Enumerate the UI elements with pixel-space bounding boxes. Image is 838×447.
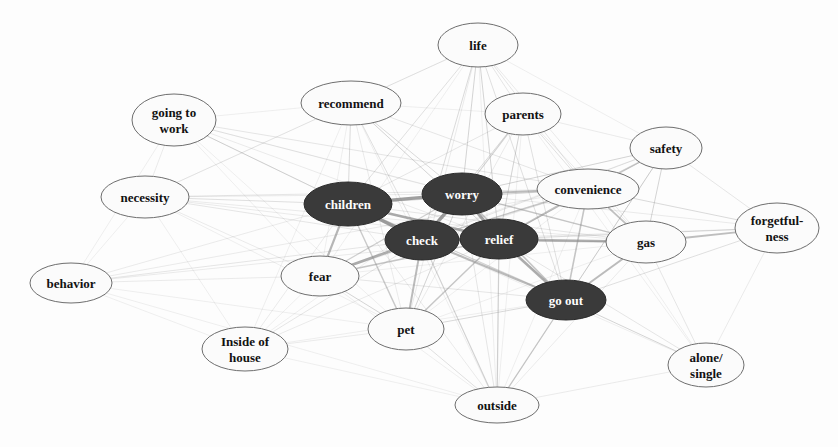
graph-edge — [345, 291, 381, 313]
node-ellipse[interactable] — [132, 94, 216, 146]
graph-node-relief[interactable]: relief — [460, 219, 538, 259]
graph-edge — [538, 240, 606, 241]
node-ellipse[interactable] — [368, 308, 444, 350]
graph-edge — [349, 125, 351, 182]
node-layer: liferecommendparentsgoing toworksafetyco… — [30, 23, 819, 423]
graph-node-gas[interactable]: gas — [606, 221, 686, 263]
graph-edge — [499, 135, 522, 387]
graph-edge — [153, 145, 165, 176]
graph-edge — [650, 169, 661, 221]
graph-edge — [656, 262, 696, 343]
graph-edge — [265, 294, 302, 330]
graph-edge — [400, 106, 485, 111]
node-ellipse[interactable] — [485, 93, 561, 135]
graph-node-fear[interactable]: fear — [281, 256, 359, 296]
node-ellipse[interactable] — [301, 81, 401, 125]
graph-edge — [595, 314, 676, 352]
graph-edge — [195, 143, 303, 258]
graph-node-outside[interactable]: outside — [455, 387, 539, 423]
graph-edge — [589, 259, 623, 284]
node-ellipse[interactable] — [385, 220, 459, 260]
graph-node-parents[interactable]: parents — [485, 93, 561, 135]
node-ellipse[interactable] — [304, 182, 392, 226]
node-ellipse[interactable] — [101, 176, 189, 218]
graph-node-inside_of_house[interactable]: Inside ofhouse — [202, 327, 288, 371]
graph-edge — [477, 133, 508, 174]
graph-edge — [502, 191, 537, 192]
graph-edge — [189, 199, 304, 203]
graph-edge — [497, 259, 499, 387]
graph-edge — [558, 122, 633, 140]
graph-edge — [619, 162, 640, 173]
graph-edge — [438, 213, 446, 222]
node-ellipse[interactable] — [668, 343, 744, 387]
node-ellipse[interactable] — [526, 280, 606, 320]
node-ellipse[interactable] — [606, 221, 686, 263]
graph-edge — [158, 217, 231, 328]
network-graph-canvas: liferecommendparentsgoing toworksafetyco… — [0, 0, 838, 447]
graph-edge — [464, 67, 475, 173]
graph-edge — [492, 66, 511, 95]
graph-edge — [103, 295, 210, 336]
node-ellipse[interactable] — [202, 327, 288, 371]
graph-edge — [287, 334, 369, 344]
graph-edge — [254, 125, 341, 328]
graph-node-check[interactable]: check — [385, 220, 459, 260]
graph-edge — [525, 205, 559, 224]
graph-node-forgetfulness[interactable]: forgetful-ness — [735, 203, 819, 253]
graph-edge — [87, 216, 128, 264]
graph-edge — [717, 252, 765, 344]
network-graph-svg: liferecommendparentsgoing toworksafetyco… — [0, 0, 838, 447]
node-ellipse[interactable] — [30, 263, 112, 303]
node-ellipse[interactable] — [438, 23, 518, 67]
node-ellipse[interactable] — [455, 387, 539, 423]
node-ellipse[interactable] — [422, 173, 502, 215]
graph-node-going_to_work[interactable]: going towork — [132, 94, 216, 146]
graph-edge — [177, 211, 291, 262]
node-ellipse[interactable] — [630, 127, 702, 169]
graph-node-behavior[interactable]: behavior — [30, 263, 112, 303]
graph-node-pet[interactable]: pet — [368, 308, 444, 350]
node-ellipse[interactable] — [460, 219, 538, 259]
graph-edge — [216, 108, 303, 116]
graph-node-recommend[interactable]: recommend — [301, 81, 401, 125]
graph-node-necessity[interactable]: necessity — [101, 176, 189, 218]
graph-node-convenience[interactable]: convenience — [537, 169, 639, 209]
graph-edge — [570, 209, 584, 280]
node-ellipse[interactable] — [281, 256, 359, 296]
graph-edge — [689, 164, 751, 208]
graph-edge — [284, 358, 459, 397]
graph-node-safety[interactable]: safety — [630, 127, 702, 169]
graph-edge — [112, 277, 281, 282]
graph-edge — [633, 198, 737, 220]
graph-edge — [539, 133, 571, 170]
graph-node-worry[interactable]: worry — [422, 173, 502, 215]
graph-edge — [427, 347, 478, 389]
graph-node-go_out[interactable]: go out — [526, 280, 606, 320]
node-ellipse[interactable] — [735, 203, 819, 253]
graph-edge — [535, 372, 670, 398]
graph-node-alone_single[interactable]: alone/single — [668, 343, 744, 387]
node-ellipse[interactable] — [537, 169, 639, 209]
graph-edge — [442, 307, 528, 323]
graph-edge — [685, 232, 735, 237]
graph-node-life[interactable]: life — [438, 23, 518, 67]
graph-node-children[interactable]: children — [304, 182, 392, 226]
graph-edge — [106, 215, 309, 273]
